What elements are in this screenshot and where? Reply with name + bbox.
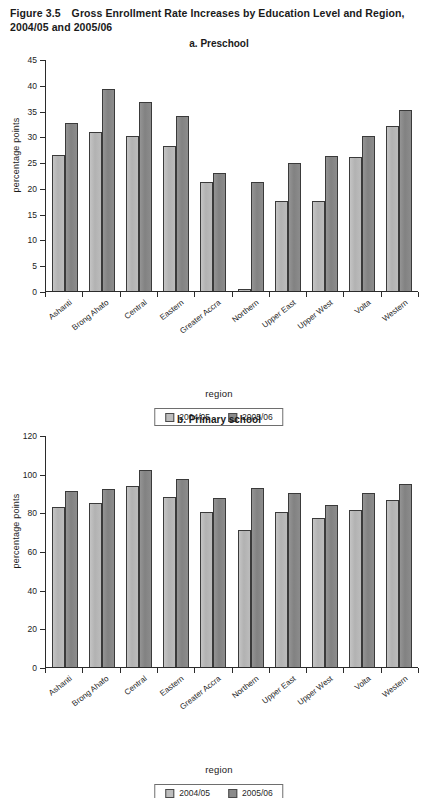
bar-group	[83, 436, 120, 667]
y-tick-label: 20	[28, 624, 37, 634]
y-tick	[40, 552, 45, 553]
bar-group	[83, 60, 120, 291]
legend-label-2004-05: 2004/05	[179, 788, 210, 798]
x-axis-label: Ashanti	[47, 674, 74, 698]
x-tick	[381, 292, 382, 297]
x-axis-label: Central	[122, 298, 148, 321]
x-tick	[343, 292, 344, 297]
figure-number: Figure 3.5	[10, 7, 61, 19]
x-tick	[157, 668, 158, 673]
y-tick-label: 60	[28, 547, 37, 557]
x-tick	[45, 668, 46, 673]
bar-upper-east-2004-05	[275, 512, 288, 667]
bar-group	[381, 436, 418, 667]
y-tick	[40, 436, 45, 437]
bar-upper-west-2004-05	[312, 518, 325, 667]
x-axis-label: Upper West	[296, 674, 335, 707]
x-tick	[269, 292, 270, 297]
y-tick	[40, 137, 45, 138]
x-tick	[194, 292, 195, 297]
bar-group	[381, 60, 418, 291]
chart-a-bar-groups	[46, 60, 418, 291]
bar-group	[158, 60, 195, 291]
bar-brong-ahafo-2005-06	[102, 89, 115, 291]
x-tick	[306, 292, 307, 297]
chart-b-xlabel: region	[0, 764, 438, 775]
y-tick	[40, 629, 45, 630]
bar-brong-ahafo-2004-05	[89, 132, 102, 291]
legend-swatch-icon-2005-06	[228, 789, 237, 798]
bar-group	[269, 436, 306, 667]
chart-b-legend: 2004/05 2005/06	[154, 784, 283, 798]
x-tick	[120, 668, 121, 673]
chart-b-bar-groups	[46, 436, 418, 667]
bar-upper-east-2005-06	[288, 493, 301, 667]
x-tick	[194, 668, 195, 673]
y-tick-label: 45	[28, 55, 37, 65]
x-axis-label: Upper East	[260, 674, 297, 706]
x-axis-label: Upper West	[296, 298, 335, 331]
bar-upper-west-2005-06	[325, 505, 338, 667]
bar-group	[344, 436, 381, 667]
y-tick	[40, 60, 45, 61]
bar-brong-ahafo-2004-05	[89, 503, 102, 667]
chart-primary-school: b. Primary school percentage points 0204…	[0, 412, 438, 688]
x-tick	[232, 668, 233, 673]
chart-b-xlabels: AshantiBrong AhafoCentralEasternGreater …	[45, 674, 418, 724]
y-tick-label: 10	[28, 235, 37, 245]
bar-group	[195, 436, 232, 667]
chart-preschool: a. Preschool percentage points 051015202…	[0, 36, 438, 312]
bar-upper-east-2005-06	[288, 163, 301, 291]
bar-group	[158, 436, 195, 667]
x-axis-label: Ashanti	[47, 298, 74, 322]
bar-ashanti-2004-05	[52, 155, 65, 291]
bar-group	[46, 60, 83, 291]
legend-label-2005-06: 2005/06	[242, 788, 273, 798]
x-axis-label: Volta	[352, 298, 372, 316]
x-axis-label: Eastern	[158, 674, 185, 698]
x-axis-label: Brong Ahafo	[71, 298, 111, 332]
x-tick	[269, 668, 270, 673]
bar-group	[269, 60, 306, 291]
x-axis-label: Volta	[352, 674, 372, 692]
x-tick	[418, 668, 419, 673]
x-tick	[232, 292, 233, 297]
bar-group	[306, 436, 343, 667]
y-tick-label: 0	[32, 287, 37, 297]
bar-upper-west-2005-06	[325, 156, 338, 291]
x-axis-label: Upper East	[260, 298, 297, 330]
chart-a-ylabel: percentage points	[11, 95, 21, 215]
bar-central-2004-05	[126, 486, 139, 667]
x-tick	[157, 292, 158, 297]
bar-group	[46, 436, 83, 667]
bar-upper-east-2004-05	[275, 201, 288, 291]
bar-greater-accra-2005-06	[213, 498, 226, 667]
bar-northern-2005-06	[251, 182, 264, 291]
y-tick-label: 35	[28, 107, 37, 117]
x-tick	[343, 668, 344, 673]
chart-b-title: b. Primary school	[0, 412, 438, 428]
bar-western-2005-06	[399, 110, 412, 291]
bar-group	[195, 60, 232, 291]
bar-central-2004-05	[126, 136, 139, 291]
bar-ashanti-2004-05	[52, 507, 65, 667]
bar-greater-accra-2004-05	[200, 182, 213, 291]
y-tick	[40, 189, 45, 190]
y-tick	[40, 266, 45, 267]
bar-group	[120, 60, 157, 291]
bar-ashanti-2005-06	[65, 491, 78, 667]
bar-northern-2004-05	[238, 530, 251, 667]
y-tick-label: 40	[28, 586, 37, 596]
x-axis-label: Brong Ahafo	[71, 674, 111, 708]
y-tick	[40, 86, 45, 87]
y-tick-label: 20	[28, 184, 37, 194]
bar-ashanti-2005-06	[65, 123, 78, 291]
bar-western-2004-05	[386, 126, 399, 291]
x-tick	[45, 292, 46, 297]
x-axis-label: Eastern	[158, 298, 185, 322]
y-tick-label: 5	[32, 261, 37, 271]
bar-central-2005-06	[139, 102, 152, 291]
bar-group	[120, 436, 157, 667]
bar-group	[306, 60, 343, 291]
y-tick-label: 100	[23, 470, 37, 480]
